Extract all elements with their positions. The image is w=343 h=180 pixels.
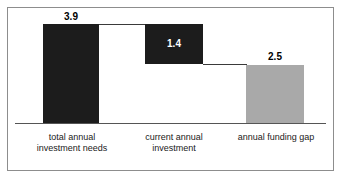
chart-frame: 3.9 1.4 2.5 total annual investment need… xyxy=(7,7,334,171)
x-axis-baseline xyxy=(15,123,326,124)
bar-total-annual-investment-needs xyxy=(43,24,99,123)
x-axis-label-annual-funding-gap: annual funding gap xyxy=(226,132,326,143)
waterfall-connector-line-2 xyxy=(203,64,247,65)
waterfall-connector-line-1 xyxy=(99,24,146,25)
bar-annual-funding-gap xyxy=(246,65,304,123)
x-axis-label-current-annual-investment: current annual investment xyxy=(128,132,220,154)
chart-plot-area: 3.9 1.4 2.5 total annual investment need… xyxy=(8,8,335,172)
bar-value-label-total-annual-investment-needs: 3.9 xyxy=(43,11,99,22)
bar-value-label-annual-funding-gap: 2.5 xyxy=(246,51,304,62)
bar-value-label-current-annual-investment: 1.4 xyxy=(145,38,203,49)
x-axis-label-total-annual-investment-needs: total annual investment needs xyxy=(26,132,118,154)
